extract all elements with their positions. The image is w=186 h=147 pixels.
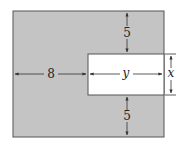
- label-bottom-margin: 5: [123, 109, 131, 123]
- label-cutout-height: x: [168, 66, 175, 80]
- label-cutout-width: y: [122, 66, 130, 80]
- label-left-width: 8: [47, 67, 55, 81]
- label-top-margin: 5: [123, 26, 131, 40]
- diagram-canvas: 8 y x 5 5: [0, 0, 186, 147]
- dimension-cutout-height: x: [165, 54, 176, 95]
